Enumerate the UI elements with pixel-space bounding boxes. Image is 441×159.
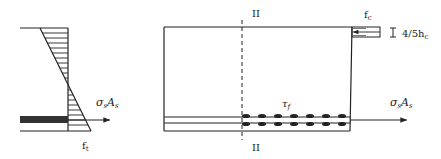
compressive-strength-label: fc: [364, 9, 372, 22]
beam-bond-diagram: II II τf fc: [164, 8, 429, 153]
depth-indicator-icon: [390, 28, 396, 37]
rebar-bar: [20, 116, 68, 123]
section-stress-diagram: σsAs ft: [20, 28, 119, 153]
steel-force-label-right: σsAs: [390, 96, 413, 110]
compression-depth-label: 4/5hc: [402, 28, 429, 41]
diagram-canvas: σsAs ft II II τf: [0, 0, 441, 159]
compression-block: [352, 27, 380, 37]
beam-right-edge: [350, 27, 352, 131]
section-label-top: II: [252, 8, 260, 19]
steel-force-label: σsAs: [96, 96, 119, 110]
tensile-strength-label: ft: [82, 140, 89, 153]
bond-stress-markers: [242, 114, 346, 126]
section-label-bottom: II: [252, 142, 260, 153]
bond-stress-label: τf: [282, 98, 292, 111]
